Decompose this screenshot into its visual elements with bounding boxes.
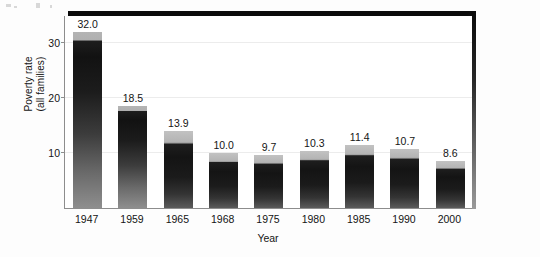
x-axis-tick-label: 1965 [166, 213, 189, 225]
x-axis-tick-label: 1975 [256, 213, 279, 225]
x-axis-tick-label: 1959 [120, 213, 143, 225]
scan-artifact [6, 4, 11, 7]
x-axis-label: Year [64, 232, 472, 244]
x-axis-tick-labels: 194719591965196819751980198519902000 [64, 0, 472, 257]
x-axis-tick-label: 1990 [392, 213, 415, 225]
y-axis-tick-label: 20 [34, 92, 60, 104]
figure-canvas: Poverty rate(all families) 102030 32.018… [0, 0, 540, 257]
x-axis-tick-label: 2000 [438, 213, 461, 225]
x-axis-tick-label: 1968 [211, 213, 234, 225]
scan-artifact [14, 6, 17, 8]
y-axis-tick-label: 30 [34, 37, 60, 49]
y-axis-tick-label: 10 [34, 147, 60, 159]
x-axis-tick-label: 1947 [75, 213, 98, 225]
y-axis-tick-labels: 102030 [30, 0, 60, 257]
x-axis-tick-label: 1980 [302, 213, 325, 225]
x-axis-tick-label: 1985 [347, 213, 370, 225]
